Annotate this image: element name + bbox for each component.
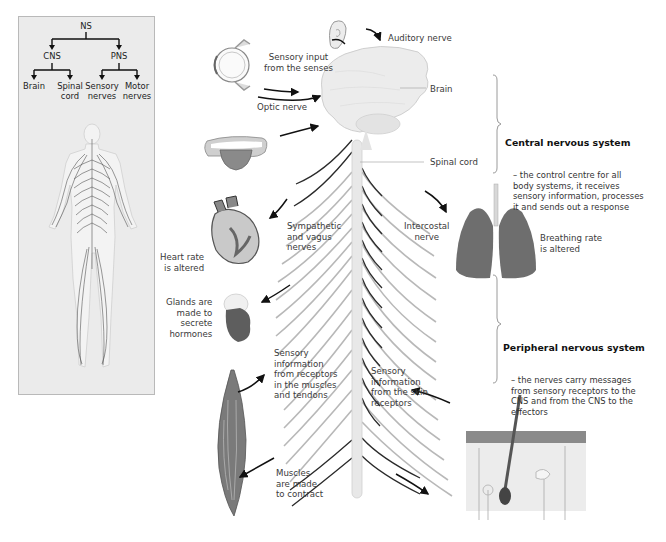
label-muscles-contract: Muscles are made to contract (276, 468, 323, 500)
pns-body: – the nerves carry messages from sensory… (503, 375, 645, 417)
label-breathing-rate: Breathing rate is altered (540, 233, 602, 254)
auditory-arrow (366, 29, 380, 40)
ear-icon (330, 21, 347, 49)
cns-description: Central nervous system – the control cen… (505, 117, 644, 223)
cns-brace (493, 75, 501, 173)
muscle-icon (218, 370, 246, 516)
cns-title: Central nervous system (505, 138, 644, 149)
tongue-icon (205, 137, 267, 170)
label-sensory-input: Sensory input from the senses (264, 52, 333, 73)
label-heart-rate: Heart rate is altered (160, 252, 204, 273)
main-diagram (0, 0, 666, 542)
pns-description: Peripheral nervous system – the nerves c… (503, 322, 645, 428)
brain-icon (321, 46, 428, 150)
label-brain: Brain (430, 84, 453, 95)
label-sympathetic-vagus: Sympathetic and vagus nerves (287, 221, 341, 253)
heart-arrow (270, 199, 287, 218)
label-auditory-nerve: Auditory nerve (388, 33, 452, 44)
pns-title: Peripheral nervous system (503, 343, 645, 354)
pns-brace (493, 275, 501, 383)
label-sensory-muscles: Sensory information from receptors in th… (274, 348, 337, 401)
label-optic-nerve: Optic nerve (257, 102, 307, 113)
label-spinal-cord: Spinal cord (430, 157, 478, 168)
cns-body: – the control centre for all body system… (505, 170, 644, 212)
gland-icon (224, 294, 250, 342)
label-glands: Glands are made to secrete hormones (166, 297, 212, 339)
tongue-arrow (280, 126, 318, 136)
spinal-cord (352, 140, 362, 498)
spinal-nerves-right (362, 168, 452, 496)
muscle-sensory-arrow (238, 375, 264, 392)
spinal-nerves-left (276, 172, 352, 482)
label-sensory-skin: Sensory information from the skin recept… (371, 366, 428, 408)
heart-icon (212, 196, 259, 264)
label-intercostal: Intercostal nerve (404, 221, 449, 242)
lungs-arrow (425, 191, 446, 212)
eye-icon (215, 40, 251, 90)
eye-arrow (264, 89, 298, 92)
